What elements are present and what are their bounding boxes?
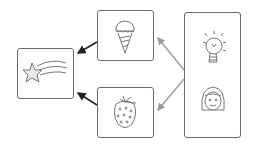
strawberry-icon [114,96,136,128]
gray-arrow-to-strawberry [158,79,184,110]
lightbulb-icon [203,31,226,62]
black-arrow-ice-cream-to-star [78,42,97,53]
ice-cream-cone-icon [116,21,134,53]
shooting-star-icon [23,61,67,82]
diagram-canvas [0,0,253,147]
black-arrow-strawberry-to-star [78,93,97,105]
gray-arrow-to-ice-cream [158,38,184,70]
girl-face-icon [202,87,225,110]
